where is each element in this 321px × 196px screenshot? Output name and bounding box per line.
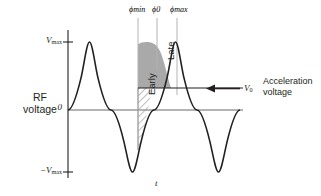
y-axis-title-line2: voltage: [14, 104, 66, 116]
annotation-text-acceleration-voltage: Acceleration voltage: [263, 76, 321, 98]
region-early-hatch: [138, 88, 153, 150]
figure-rf-voltage-acceleration: { "figure": { "caption_axes": { "ylabel_…: [0, 0, 321, 196]
annotation-line1: Acceleration: [263, 76, 321, 87]
annotation-symbol-v0: V0: [244, 83, 253, 94]
left-arrow-icon: [206, 85, 240, 93]
y-tick-label-vmin: −Vmax: [40, 165, 62, 176]
y-axis-title: RF voltage: [14, 92, 66, 116]
annotation-line2: voltage: [263, 87, 321, 98]
region-label-late: Late: [165, 42, 176, 61]
phase-label-phi-min: ϕmin: [129, 5, 145, 14]
phase-label-phi-0: ϕ0: [152, 5, 160, 14]
region-label-early: Early: [146, 73, 157, 95]
phase-label-phi-max: ϕmax: [170, 5, 187, 14]
y-tick-label-vmax: Vmax: [46, 35, 62, 46]
y-axis-title-line1: RF: [14, 92, 66, 104]
x-axis-title: t: [155, 178, 158, 188]
